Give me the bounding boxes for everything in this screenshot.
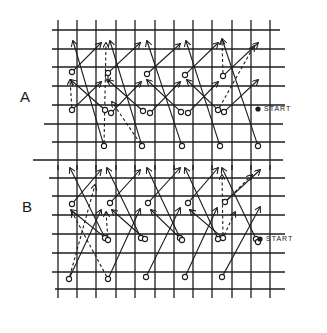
dashed-arrow — [70, 80, 72, 107]
loop-circle-icon — [185, 200, 190, 205]
loop-circle-icon — [107, 200, 112, 205]
start-label-a: START — [264, 105, 291, 112]
start-dot-icon — [255, 106, 260, 111]
dashed-paths — [70, 40, 254, 276]
knitting-chart-diagram — [0, 0, 327, 333]
loop-circle-icon — [69, 69, 74, 74]
dashed-arrow — [106, 212, 108, 237]
loop-circle-icon — [217, 143, 222, 148]
solid-arrow — [74, 170, 101, 202]
loop-circle-icon — [69, 107, 74, 112]
solid-arrow — [186, 41, 219, 143]
solid-arrow — [147, 41, 181, 143]
loop-circle-icon — [105, 70, 110, 75]
dashed-arrow — [222, 175, 223, 235]
loop-circle-icon — [255, 143, 260, 148]
loop-circle-icon — [185, 110, 190, 115]
loop-circle-icon — [145, 200, 150, 205]
loop-circle-icon — [108, 110, 113, 115]
loop-circle-icon — [101, 143, 106, 148]
grid-lines — [33, 20, 285, 298]
dashed-arrow — [222, 40, 223, 73]
panel-label-b: B — [22, 198, 32, 215]
loop-circle-icon — [144, 71, 149, 76]
loop-circle-icon — [142, 236, 147, 241]
solid-arrow — [149, 44, 180, 72]
loop-circle-icon — [105, 276, 110, 281]
solid-arrow — [74, 43, 101, 70]
loop-circle-icon — [222, 199, 227, 204]
start-dot-icon — [257, 236, 262, 241]
loop-circle-icon — [220, 235, 225, 240]
loop-circle-icon — [215, 236, 220, 241]
loop-circle-icon — [143, 274, 148, 279]
loop-circle-icon — [139, 143, 144, 148]
loop-circle-icon — [105, 237, 110, 242]
solid-arrow — [147, 208, 180, 274]
loop-circle-icon — [179, 143, 184, 148]
loop-circle-icon — [220, 73, 225, 78]
loop-circle-icon — [182, 72, 187, 77]
loop-circle-icon — [102, 107, 107, 112]
start-label-b: START — [266, 235, 293, 242]
solid-arrow — [222, 39, 257, 143]
loop-circle-icon — [221, 109, 226, 114]
loop-circle-icon — [179, 237, 184, 242]
loop-circle-icon — [66, 276, 71, 281]
solid-arrow — [225, 43, 258, 74]
loop-circle-icon — [147, 110, 152, 115]
loop-circle-icon — [219, 274, 224, 279]
loop-circle-icon — [182, 274, 187, 279]
dashed-arrow — [104, 43, 106, 143]
loop-circle-icon — [215, 107, 220, 112]
panel-label-a: A — [20, 88, 30, 105]
loop-circle-icon — [69, 201, 74, 206]
loop-circle-icon — [140, 108, 145, 113]
loop-circle-icon — [178, 109, 183, 114]
